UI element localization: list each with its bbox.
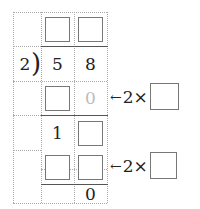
- final-remainder: 0: [74, 184, 107, 203]
- annotation-text: 2×: [123, 156, 148, 176]
- rem1-ones-box[interactable]: [78, 121, 103, 146]
- quotient-tens-box[interactable]: [45, 17, 70, 42]
- annotation-1-box[interactable]: [150, 83, 179, 110]
- annotation-2: ← 2×: [110, 152, 177, 179]
- sub1-tens-box[interactable]: [45, 86, 70, 111]
- annotation-text: 2×: [123, 87, 148, 107]
- annotation-1: ← 2×: [110, 83, 179, 110]
- rem1-tens-digit: 1: [41, 116, 74, 150]
- left-arrow-icon: ←: [110, 158, 122, 174]
- grid-line: [13, 12, 14, 203]
- sub2-ones-box[interactable]: [78, 155, 103, 180]
- sub1-ones-digit: 0: [74, 81, 107, 115]
- division-bracket: ): [31, 50, 41, 76]
- dividend-ones: 8: [74, 47, 107, 81]
- grid-line: [107, 12, 108, 203]
- dividend-tens: 5: [41, 47, 74, 81]
- grid-line: [13, 150, 41, 151]
- left-arrow-icon: ←: [110, 89, 122, 105]
- annotation-2-box[interactable]: [150, 152, 177, 179]
- sub2-tens-box[interactable]: [45, 155, 70, 180]
- grid-line: [13, 115, 41, 116]
- quotient-ones-box[interactable]: [78, 17, 103, 42]
